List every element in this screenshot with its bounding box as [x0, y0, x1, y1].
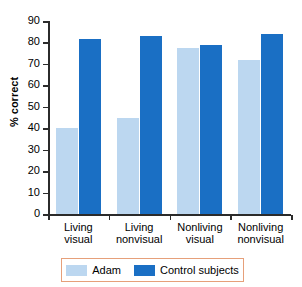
y-tick-label-40: 40: [14, 122, 40, 133]
y-tick-30: [43, 150, 48, 152]
y-tick-label-20: 20: [14, 165, 40, 176]
legend-label-adam: Adam: [92, 264, 121, 276]
bar-adam-nonliving-nonvisual: [238, 60, 260, 214]
y-tick-label-90: 90: [14, 15, 40, 26]
bar-control-subjects-nonliving-visual: [200, 45, 222, 214]
x-category-label-line-1: nonvisual: [221, 234, 301, 246]
x-tick-3: [230, 215, 232, 220]
bar-adam-living-visual: [56, 128, 78, 214]
bar-adam-nonliving-visual: [177, 48, 199, 214]
x-tick-4: [291, 215, 293, 220]
y-tick-80: [43, 42, 48, 44]
y-tick-label-60: 60: [14, 79, 40, 90]
legend-item-adam: Adam: [66, 264, 121, 276]
x-category-label-nonliving-nonvisual: Nonlivingnonvisual: [221, 222, 301, 245]
y-tick-label-80: 80: [14, 36, 40, 47]
x-category-label-line-0: Nonliving: [221, 222, 301, 234]
bar-control-subjects-living-nonvisual: [140, 36, 162, 214]
y-tick-20: [43, 171, 48, 173]
bar-adam-living-nonvisual: [117, 118, 139, 215]
y-tick-40: [43, 128, 48, 130]
legend-label-control-subjects: Control subjects: [160, 264, 239, 276]
y-tick-10: [43, 193, 48, 195]
legend-swatch-adam: [66, 265, 87, 276]
legend: Adam Control subjects: [61, 258, 244, 282]
x-tick-2: [170, 215, 172, 220]
y-axis-line: [48, 21, 50, 215]
plot-area: 9080706050403020100: [48, 21, 291, 215]
y-tick-70: [43, 64, 48, 66]
bar-control-subjects-living-visual: [79, 39, 101, 214]
bar-chart: % correct 9080706050403020100 Livingvisu…: [0, 0, 302, 287]
x-tick-1: [109, 215, 111, 220]
y-tick-60: [43, 85, 48, 87]
y-tick-label-70: 70: [14, 58, 40, 69]
y-tick-label-30: 30: [14, 144, 40, 155]
legend-swatch-control-subjects: [134, 265, 155, 276]
y-tick-50: [43, 107, 48, 109]
y-tick-90: [43, 21, 48, 23]
y-tick-label-0: 0: [14, 208, 40, 219]
y-tick-label-50: 50: [14, 101, 40, 112]
x-tick-0: [48, 215, 50, 220]
legend-item-control-subjects: Control subjects: [134, 264, 239, 276]
y-tick-label-10: 10: [14, 187, 40, 198]
bar-control-subjects-nonliving-nonvisual: [261, 34, 283, 214]
